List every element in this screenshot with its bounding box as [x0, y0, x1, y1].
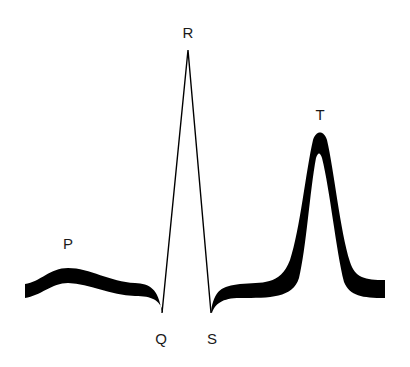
- st-segment-t-wave: [211, 133, 385, 314]
- q-wave-label: Q: [155, 331, 167, 346]
- p-wave-segment: [25, 268, 163, 312]
- ecg-waveform-svg: [0, 0, 410, 367]
- qrs-complex: [162, 50, 211, 313]
- p-wave-label: P: [63, 236, 73, 251]
- s-wave-label: S: [207, 331, 217, 346]
- r-wave-label: R: [183, 25, 194, 40]
- ecg-diagram: P R Q S T: [0, 0, 410, 367]
- t-wave-label: T: [315, 107, 324, 122]
